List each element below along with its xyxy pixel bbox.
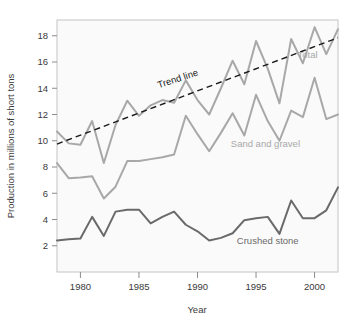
chart-figure: 24681012141618 19801985199019952000 Tren… [0, 0, 351, 328]
x-axis-tick-labels: 19801985199019952000 [70, 281, 325, 292]
series-label-total: Total [298, 49, 318, 60]
y-tick-label: 16 [37, 56, 48, 67]
x-axis-title: Year [187, 304, 206, 315]
y-tick-label: 4 [43, 214, 48, 225]
y-axis-tick-labels: 24681012141618 [37, 30, 48, 251]
line-chart: 24681012141618 19801985199019952000 Tren… [0, 0, 351, 328]
x-tick-label: 1985 [128, 281, 149, 292]
x-tick-label: 1980 [70, 281, 91, 292]
y-tick-label: 14 [37, 83, 48, 94]
y-tick-label: 12 [37, 109, 48, 120]
y-axis-title: Production in millions of short tons [5, 73, 16, 218]
y-tick-label: 8 [43, 161, 48, 172]
x-tick-label: 2000 [304, 281, 325, 292]
y-axis-ticks [52, 36, 57, 246]
y-tick-label: 2 [43, 240, 48, 251]
x-tick-label: 1990 [187, 281, 208, 292]
y-tick-label: 18 [37, 30, 48, 41]
x-tick-label: 1995 [245, 281, 266, 292]
y-tick-label: 6 [43, 188, 48, 199]
x-axis-ticks [80, 272, 314, 278]
y-tick-label: 10 [37, 135, 48, 146]
series-label-sand-and-gravel: Sand and gravel [231, 138, 300, 149]
series-label-crushed-stone: Crushed stone [237, 235, 299, 246]
